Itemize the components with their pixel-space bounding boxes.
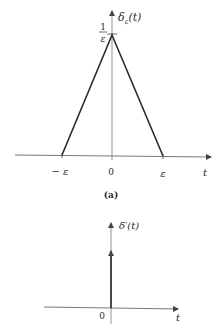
peak-label-denominator: ε bbox=[101, 34, 106, 44]
tick-label-origin-a: 0 bbox=[108, 167, 114, 177]
diagram-canvas: δε(t) 1 ε − ε 0 ε t (a) δ′(t) 0 t bbox=[0, 0, 222, 324]
tick-label-epsilon: ε bbox=[160, 168, 165, 179]
figure-a: δε(t) 1 ε − ε 0 ε t (a) bbox=[15, 11, 211, 200]
function-label-a: δε(t) bbox=[118, 11, 141, 26]
axis-label-t-a: t bbox=[203, 167, 208, 178]
axis-label-t-b: t bbox=[176, 312, 181, 323]
tick-label-origin-b: 0 bbox=[99, 311, 105, 321]
t-axis-a bbox=[15, 155, 211, 157]
function-label-b: δ′(t) bbox=[119, 220, 139, 231]
caption-a: (a) bbox=[104, 190, 118, 200]
peak-label-numerator: 1 bbox=[100, 22, 106, 32]
figure-b: δ′(t) 0 t bbox=[44, 220, 181, 324]
triangle-pulse bbox=[62, 35, 163, 156]
tick-label-neg-epsilon: − ε bbox=[52, 166, 69, 177]
